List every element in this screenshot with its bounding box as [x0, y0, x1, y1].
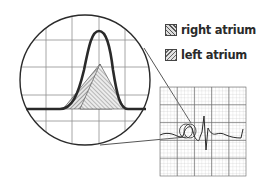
legend-item-left-atrium: left atrium: [165, 48, 247, 62]
legend-label: left atrium: [181, 48, 247, 62]
right-atrium-swatch-icon: [165, 24, 177, 36]
left-atrium-swatch-icon: [165, 49, 177, 61]
ecg-strip: [160, 87, 246, 176]
legend-label: right atrium: [181, 23, 256, 37]
legend-item-right-atrium: right atrium: [165, 23, 256, 37]
magnified-p-wave: [15, 10, 155, 150]
